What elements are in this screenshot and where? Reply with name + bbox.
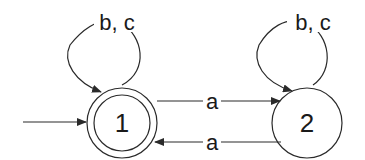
state-2-label: 2 [300,108,314,138]
transition-1-to-2-label: a [206,89,219,114]
state-1: 1 [87,88,157,158]
self-loop-1-label: b, c [99,10,134,35]
automaton-diagram: 1 2 b, c b, c a a [0,0,365,160]
self-loop-2-label: b, c [295,10,330,35]
state-2: 2 [272,88,342,158]
transition-2-to-1-label: a [206,130,219,155]
state-1-label: 1 [115,108,129,138]
